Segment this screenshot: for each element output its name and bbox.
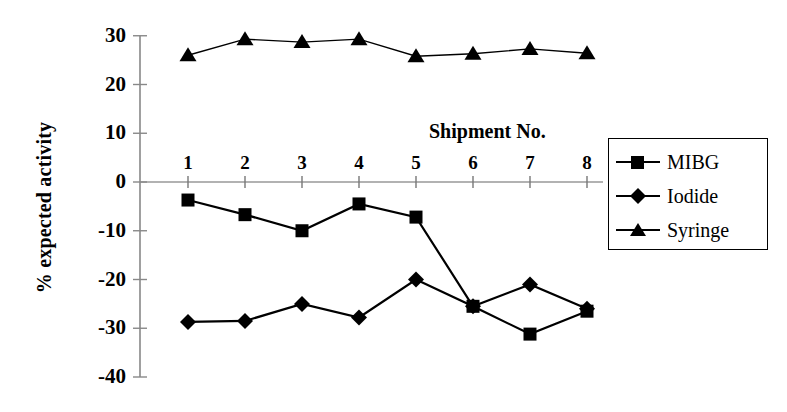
data-point-triangle-icon (237, 31, 254, 45)
legend-label-syringe: Syringe (667, 220, 729, 240)
legend-entry-iodide: Iodide (609, 179, 767, 213)
data-point-diamond-icon (294, 296, 310, 312)
data-point-diamond-icon (351, 310, 367, 326)
legend: MIBG Iodide Syringe (608, 138, 768, 250)
series-iodide (180, 272, 595, 330)
series-syringe (180, 31, 596, 62)
data-point-square-icon (353, 197, 366, 210)
data-point-square-icon (581, 305, 594, 318)
data-point-square-icon (296, 224, 309, 237)
data-point-diamond-icon (408, 272, 424, 288)
data-point-triangle-icon (351, 31, 368, 45)
legend-entry-syringe: Syringe (609, 213, 767, 247)
data-point-square-icon (239, 208, 252, 221)
legend-entry-mibg: MIBG (609, 145, 767, 179)
data-point-diamond-icon (522, 276, 538, 292)
chart-container: % expected activity Shipment No. 3020100… (0, 0, 787, 412)
legend-label-mibg: MIBG (667, 152, 719, 172)
data-point-triangle-icon (522, 41, 539, 55)
data-point-square-icon (410, 211, 423, 224)
legend-label-iodide: Iodide (667, 186, 718, 206)
data-point-square-icon (182, 194, 195, 207)
data-point-diamond-icon (237, 313, 253, 329)
legend-marker-triangle-icon (616, 220, 660, 240)
legend-marker-diamond-icon (616, 186, 660, 206)
data-point-square-icon (524, 328, 537, 341)
data-point-square-icon (467, 300, 480, 313)
legend-marker-square-icon (616, 152, 660, 172)
data-point-triangle-icon (408, 48, 425, 62)
data-point-diamond-icon (180, 314, 196, 330)
